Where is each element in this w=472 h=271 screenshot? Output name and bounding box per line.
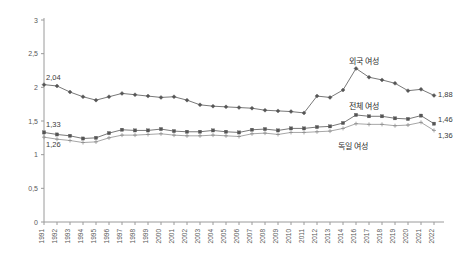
- data-point-marker: [42, 83, 46, 87]
- end-label-foreign: 1,88: [438, 90, 453, 99]
- data-point-marker: [120, 133, 124, 137]
- data-point-marker: [172, 133, 176, 137]
- data-point-marker: [341, 126, 345, 130]
- data-point-marker: [276, 129, 279, 132]
- data-point-marker: [276, 109, 280, 113]
- data-point-marker: [263, 108, 267, 112]
- x-tick-label: 2004: [207, 229, 214, 244]
- data-point-marker: [94, 98, 98, 102]
- data-point-marker: [380, 115, 383, 118]
- data-point-marker: [107, 95, 111, 99]
- data-point-marker: [263, 131, 267, 135]
- data-point-marker: [315, 125, 318, 128]
- data-point-marker: [419, 120, 423, 124]
- data-point-marker: [42, 135, 46, 139]
- start-label-all: 1,33: [46, 120, 61, 129]
- data-point-marker: [211, 104, 215, 108]
- x-tick-label: 2022: [428, 229, 435, 244]
- x-tick-label: 2014: [337, 229, 344, 244]
- data-point-marker: [198, 134, 202, 138]
- x-tick-label: 2020: [402, 229, 409, 244]
- x-tick-label: 1992: [51, 229, 58, 244]
- data-point-marker: [94, 140, 98, 144]
- x-tick-label: 1999: [142, 229, 149, 244]
- annotation-all-women: 전체 여성: [349, 101, 379, 111]
- x-tick-label: 2017: [363, 229, 370, 244]
- data-point-marker: [133, 93, 137, 97]
- data-point-marker: [328, 95, 332, 99]
- data-point-marker: [354, 113, 357, 116]
- data-point-marker: [81, 137, 84, 140]
- x-tick-label: 1991: [38, 229, 45, 244]
- data-point-marker: [133, 129, 136, 132]
- x-tick-label: 2001: [168, 229, 175, 244]
- data-point-marker: [94, 136, 97, 139]
- data-point-marker: [211, 129, 214, 132]
- data-point-marker: [159, 127, 162, 130]
- data-point-marker: [211, 133, 215, 137]
- x-tick-label: 2021: [415, 229, 422, 244]
- data-point-marker: [107, 136, 111, 140]
- x-tick-label: 2013: [324, 229, 331, 244]
- data-point-marker: [328, 125, 331, 128]
- data-point-marker: [367, 122, 371, 126]
- data-point-marker: [289, 110, 293, 114]
- data-point-marker: [406, 89, 410, 93]
- data-point-marker: [432, 93, 436, 97]
- data-point-marker: [172, 130, 175, 133]
- data-point-marker: [419, 87, 423, 91]
- data-point-marker: [146, 132, 150, 136]
- annotation-german-women: 독일 여성: [338, 141, 368, 151]
- y-tick-label: 2: [34, 84, 38, 91]
- x-tick-label: 2018: [376, 229, 383, 244]
- data-point-marker: [159, 95, 163, 99]
- data-point-marker: [419, 114, 422, 117]
- x-tick-label: 1994: [77, 229, 84, 244]
- data-point-marker: [224, 105, 228, 109]
- x-tick-label: 1998: [129, 229, 136, 244]
- data-point-marker: [237, 134, 241, 138]
- data-point-marker: [172, 95, 176, 99]
- data-point-marker: [133, 133, 137, 137]
- data-point-marker: [341, 121, 344, 124]
- y-tick-label: 2,5: [28, 50, 38, 57]
- x-tick-label: 1996: [103, 229, 110, 244]
- data-point-marker: [81, 95, 85, 99]
- x-tick-label: 2000: [155, 229, 162, 244]
- x-tick-label: 2006: [233, 229, 240, 244]
- data-point-marker: [42, 131, 45, 134]
- data-point-marker: [198, 130, 201, 133]
- fertility-rate-line-chart: 00,511,522,53199119921993199419951996199…: [0, 0, 472, 271]
- data-point-marker: [237, 106, 241, 110]
- data-point-marker: [315, 130, 319, 134]
- data-point-marker: [185, 98, 189, 102]
- data-point-marker: [406, 123, 410, 127]
- data-point-marker: [250, 106, 254, 110]
- data-point-marker: [146, 94, 150, 98]
- data-point-marker: [380, 78, 384, 82]
- y-tick-label: 1: [34, 151, 38, 158]
- x-tick-label: 2005: [220, 229, 227, 244]
- data-point-marker: [185, 134, 189, 138]
- data-point-marker: [380, 122, 384, 126]
- x-tick-label: 1995: [90, 229, 97, 244]
- x-tick-label: 2003: [194, 229, 201, 244]
- data-point-marker: [367, 115, 370, 118]
- data-point-marker: [432, 128, 436, 132]
- data-point-marker: [289, 127, 292, 130]
- start-label-foreign: 2,04: [46, 73, 61, 82]
- x-tick-label: 1993: [64, 229, 71, 244]
- x-tick-label: 2010: [285, 229, 292, 244]
- start-label-german: 1,26: [46, 140, 61, 149]
- data-point-marker: [107, 132, 110, 135]
- data-point-marker: [354, 122, 358, 126]
- data-point-marker: [68, 134, 71, 137]
- x-tick-label: 2002: [181, 229, 188, 244]
- data-point-marker: [393, 124, 397, 128]
- data-point-marker: [393, 81, 397, 85]
- data-point-marker: [224, 134, 228, 138]
- data-point-marker: [81, 141, 85, 145]
- data-point-marker: [185, 130, 188, 133]
- y-tick-label: 1,5: [28, 118, 38, 125]
- y-tick-label: 3: [34, 17, 38, 24]
